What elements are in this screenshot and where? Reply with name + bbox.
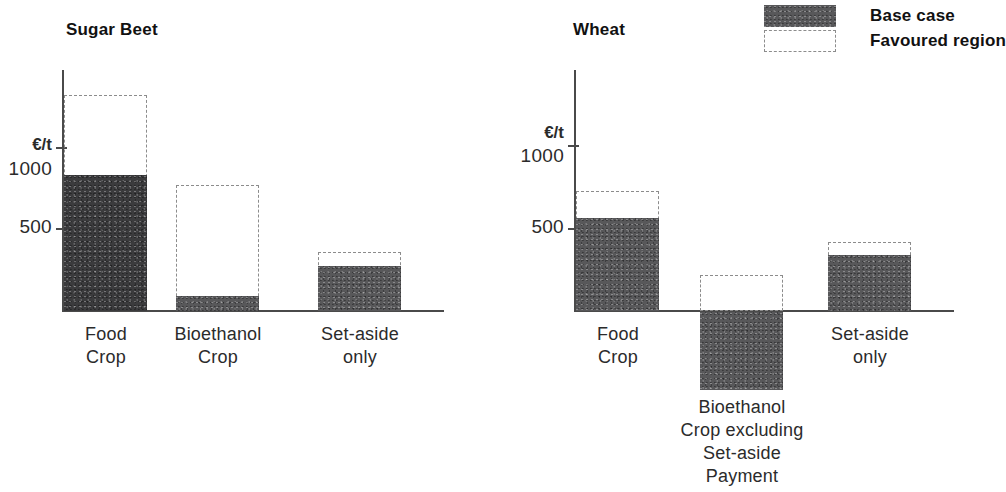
bar-base-wheat-set-aside-only (828, 255, 911, 311)
legend-label-base-case: Base case (870, 6, 955, 26)
legend-swatch-base-case-icon (764, 5, 836, 27)
x-category-label-wheat-set-aside-only: Set-aside only (812, 323, 928, 369)
chart-title-wheat: Wheat (573, 20, 625, 40)
x-category-label-sugar-beet-bioethanol-crop: Bioethanol Crop (160, 323, 276, 369)
bar-favoured-sugar-beet-bioethanol-crop (176, 185, 259, 311)
bar-base-wheat-food-crop (576, 218, 659, 311)
y-axis-unit-label-wheat: €/t (512, 123, 564, 143)
chart-title-sugar-beet: Sugar Beet (66, 20, 158, 40)
x-category-label-wheat-food-crop: Food Crop (562, 323, 674, 369)
x-category-label-sugar-beet-set-aside-only: Set-aside only (302, 323, 418, 369)
bar-base-sugar-beet-set-aside-only (318, 266, 401, 311)
y-tick-label-500-sugar-beet: 500 (0, 216, 52, 238)
bar-base-sugar-beet-food-crop (64, 175, 147, 311)
bar-base-sugar-beet-bioethanol-crop (176, 296, 259, 311)
legend-item-favoured-region: Favoured region (764, 30, 1006, 52)
bar-base-wheat-bioethanol-crop-excluding-set-aside-payment (700, 312, 783, 390)
bar-favoured-wheat-bioethanol-crop-excluding-set-aside-payment (700, 275, 783, 311)
y-axis-unit-label-sugar-beet: €/t (0, 135, 52, 155)
legend-item-base-case: Base case (764, 5, 955, 27)
legend-label-favoured-region: Favoured region (870, 31, 1006, 51)
y-tick-label-1000-wheat: 1000 (506, 145, 564, 167)
y-tick-label-500-wheat: 500 (506, 216, 564, 238)
y-tick-1000-wheat (568, 145, 579, 147)
legend-swatch-favoured-region-icon (764, 30, 836, 52)
y-tick-label-1000-sugar-beet: 1000 (0, 158, 52, 180)
x-category-label-sugar-beet-food-crop: Food Crop (50, 323, 162, 369)
x-category-label-wheat-bioethanol-crop-excluding-set-aside-payment: Bioethanol Crop excluding Set-aside Paym… (664, 396, 820, 488)
